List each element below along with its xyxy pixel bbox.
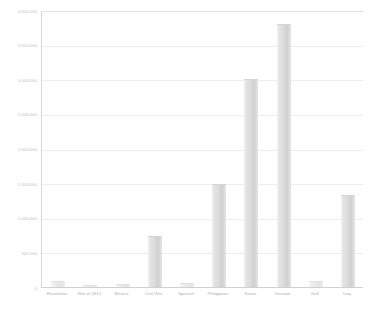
y-axis-tick-label: 0 <box>0 286 37 291</box>
y-axis-tick-label: 3,000,000 <box>0 78 37 83</box>
y-axis-tick-label: 1,500,000 <box>0 182 37 187</box>
bar <box>148 236 162 287</box>
gridline <box>42 184 363 185</box>
x-axis-tick-label: Iraq <box>317 291 370 297</box>
bar <box>180 283 194 287</box>
y-axis-tick-label: 2,000,000 <box>0 147 37 152</box>
bar-chart: 0500,0001,000,0001,500,0002,000,0002,500… <box>0 0 370 315</box>
bar <box>244 79 258 287</box>
gridline <box>42 46 363 47</box>
bar <box>83 285 97 287</box>
y-axis-tick-label: 500,000 <box>0 251 37 256</box>
y-axis-tick-label: 3,500,000 <box>0 43 37 48</box>
gridline <box>42 115 363 116</box>
bar <box>309 281 323 287</box>
bar <box>116 284 130 287</box>
bar <box>212 184 226 287</box>
y-axis-tick-label: 1,000,000 <box>0 216 37 221</box>
bar <box>341 195 355 287</box>
gridline <box>42 11 363 12</box>
bar <box>51 281 65 287</box>
gridline <box>42 150 363 151</box>
bar <box>277 24 291 287</box>
gridline <box>42 253 363 254</box>
gridline <box>42 219 363 220</box>
y-axis-tick-label: 4,000,000 <box>0 9 37 14</box>
y-axis-tick-label: 2,500,000 <box>0 112 37 117</box>
gridline <box>42 80 363 81</box>
plot-area <box>41 11 363 288</box>
